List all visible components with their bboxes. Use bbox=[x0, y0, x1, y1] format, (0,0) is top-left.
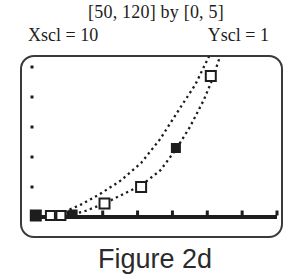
plot-canvas bbox=[0, 0, 296, 279]
figure-2d: [50, 120] by [0, 5] Xscl = 10 Yscl = 1 F… bbox=[0, 0, 296, 279]
figure-caption: Figure 2d bbox=[0, 244, 296, 275]
